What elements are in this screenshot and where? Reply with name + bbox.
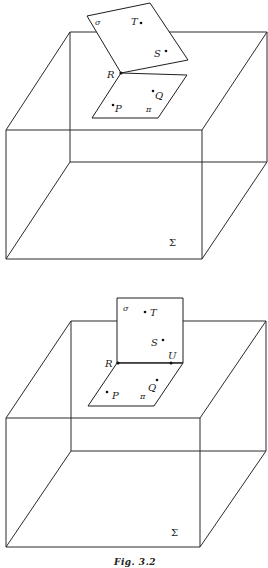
bottom-panel: σ T S R U Q π P Σ [6, 298, 266, 547]
bottom-point-U-label: U [168, 350, 177, 361]
top-point-S [165, 50, 168, 53]
bottom-point-Q [156, 379, 159, 382]
bottom-point-T [144, 311, 147, 314]
bottom-space-sigma-label: Σ [171, 527, 178, 538]
top-point-R [119, 71, 122, 74]
top-panel: σ T S R Q P π Σ [6, 3, 267, 259]
top-point-T [140, 22, 143, 25]
top-point-Q [152, 90, 155, 93]
top-sigma-label: σ [95, 18, 101, 27]
figure-caption: Fig. 3.2 [113, 557, 156, 567]
bottom-point-R [116, 361, 119, 364]
top-point-P [112, 104, 115, 107]
bottom-point-S-label: S [151, 337, 158, 348]
top-space-sigma-label: Σ [169, 237, 176, 248]
bottom-plane-pi [88, 363, 183, 406]
bottom-point-P [106, 391, 109, 394]
bottom-point-U [170, 362, 173, 365]
bottom-sigma-label: σ [123, 304, 129, 313]
figure-canvas: σ T S R Q P π Σ σ T S [0, 0, 268, 568]
top-point-P-label: P [114, 103, 122, 114]
top-pi-label: π [145, 105, 152, 114]
bottom-point-Q-label: Q [148, 382, 156, 393]
top-point-Q-label: Q [155, 90, 163, 101]
bottom-pi-label: π [139, 392, 146, 401]
top-plane-sigma [87, 3, 188, 73]
top-point-R-label: R [106, 69, 115, 80]
bottom-point-P-label: P [111, 390, 119, 401]
bottom-point-S [162, 339, 165, 342]
bottom-point-R-label: R [104, 358, 113, 369]
top-point-S-label: S [154, 48, 161, 59]
